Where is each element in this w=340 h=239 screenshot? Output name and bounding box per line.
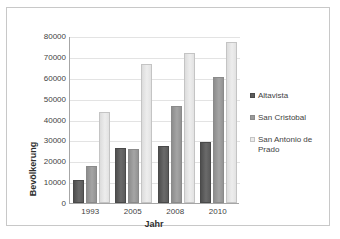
y-axis-tick-label: 20000 (44, 158, 66, 166)
y-axis-tick-label: 60000 (44, 75, 66, 83)
plot-area: 0100002000030000400005000060000700008000… (69, 37, 239, 204)
x-axis-tick-label: 2005 (112, 207, 154, 216)
bar-group (198, 37, 241, 203)
legend-item-label: San Antonio de Prado (258, 135, 330, 155)
bar-group (155, 37, 198, 203)
y-axis-tick-label: 40000 (44, 117, 66, 125)
bar[interactable] (141, 64, 152, 203)
y-axis-tick-label: 50000 (44, 96, 66, 104)
x-axis-tick-label: 1993 (69, 207, 111, 216)
bar[interactable] (115, 148, 126, 203)
y-axis-tick-label: 80000 (44, 33, 66, 41)
bar[interactable] (128, 149, 139, 203)
legend-swatch-icon (250, 93, 255, 98)
bar-group (70, 37, 113, 203)
bar-group (113, 37, 156, 203)
bar[interactable] (86, 166, 97, 203)
legend-swatch-icon (250, 137, 255, 142)
bar[interactable] (99, 112, 110, 203)
bar[interactable] (184, 53, 195, 203)
legend-item-label: San Cristobal (258, 113, 306, 123)
legend-item-label: Altavista (258, 91, 288, 101)
y-axis-tick-label: 0 (62, 200, 66, 208)
chart-frame: Bevölkerung 0100002000030000400005000060… (6, 7, 330, 226)
y-axis-tick-label: 10000 (44, 179, 66, 187)
bar[interactable] (73, 180, 84, 203)
bar[interactable] (200, 142, 211, 203)
y-axis-title-text: Bevölkerung (28, 142, 38, 197)
legend-item[interactable]: San Cristobal (250, 113, 330, 123)
y-axis-title: Bevölkerung (21, 79, 35, 169)
legend-item[interactable]: San Antonio de Prado (250, 135, 330, 155)
x-axis-tick-label: 2008 (154, 207, 196, 216)
bar[interactable] (213, 77, 224, 203)
y-axis-tick-label: 30000 (44, 137, 66, 145)
legend-swatch-icon (250, 115, 255, 120)
y-axis-tick-label: 70000 (44, 54, 66, 62)
chart-legend: AltavistaSan CristobalSan Antonio de Pra… (250, 91, 330, 167)
legend-item[interactable]: Altavista (250, 91, 330, 101)
bar[interactable] (171, 106, 182, 203)
bar[interactable] (226, 42, 237, 203)
bar[interactable] (158, 146, 169, 203)
x-axis-title: Jahr (69, 219, 239, 229)
x-axis-tick-label: 2010 (197, 207, 239, 216)
